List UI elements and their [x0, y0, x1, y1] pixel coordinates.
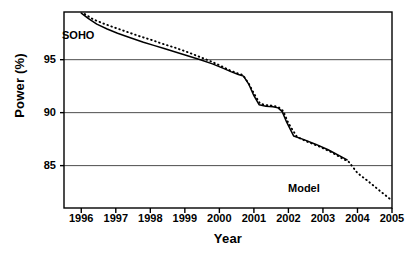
y-tick-label: 85 — [30, 159, 56, 171]
y-tick-label: 90 — [30, 106, 56, 118]
plot-frame — [64, 12, 392, 208]
x-axis-title: Year — [64, 231, 392, 246]
y-tick-label: 95 — [30, 53, 56, 65]
series-label-model: Model — [288, 182, 320, 194]
series-line-soho — [81, 13, 347, 160]
series-line-model — [85, 14, 392, 200]
series-label-soho: SOHO — [62, 29, 94, 41]
y-gridlines — [64, 60, 392, 166]
y-axis-title: Power (%) — [12, 41, 27, 131]
x-tick-label: 2005 — [372, 212, 409, 224]
